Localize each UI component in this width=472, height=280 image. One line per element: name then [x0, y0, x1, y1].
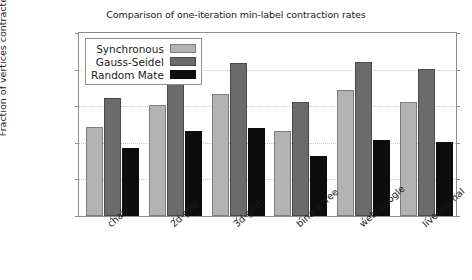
legend-color-swatch — [170, 70, 196, 79]
bar-group — [274, 33, 327, 216]
y-axis-tick-mark — [75, 216, 79, 217]
y-axis-tick-mark — [75, 143, 79, 144]
y-axis-tick-mark-right — [456, 143, 460, 144]
chart-legend: SynchronousGauss-SeidelRandom Mate — [85, 38, 202, 85]
chart-title: Comparison of one-iteration min-label co… — [0, 9, 472, 20]
legend-item: Random Mate — [91, 68, 196, 81]
bar — [292, 102, 309, 216]
bar — [149, 105, 166, 216]
bar — [86, 127, 103, 216]
legend-item: Gauss-Seidel — [91, 55, 196, 68]
legend-color-swatch — [170, 57, 196, 66]
bar — [418, 69, 435, 216]
y-axis-tick-mark — [75, 106, 79, 107]
y-axis-tick-mark — [75, 70, 79, 71]
legend-item: Synchronous — [91, 42, 196, 55]
bar — [274, 131, 291, 216]
bar — [212, 94, 229, 216]
bar-group — [400, 33, 453, 216]
y-axis-tick-mark-right — [456, 216, 460, 217]
bar — [337, 90, 354, 216]
bar — [167, 72, 184, 216]
bar — [230, 63, 247, 216]
y-axis-tick-mark — [75, 33, 79, 34]
bar — [104, 98, 121, 216]
y-axis-tick-mark-right — [456, 70, 460, 71]
legend-label: Gauss-Seidel — [96, 56, 164, 68]
bar-group — [337, 33, 390, 216]
bar-group — [212, 33, 265, 216]
legend-color-swatch — [170, 44, 196, 53]
y-axis-tick-mark-right — [456, 179, 460, 180]
bar — [400, 102, 417, 216]
y-axis-tick-mark-right — [456, 106, 460, 107]
bar-chart-figure: Comparison of one-iteration min-label co… — [0, 0, 472, 280]
legend-label: Synchronous — [96, 43, 164, 55]
bar — [355, 62, 372, 216]
y-axis-tick-mark-right — [456, 33, 460, 34]
legend-label: Random Mate — [91, 69, 164, 81]
y-axis-tick-mark — [75, 179, 79, 180]
y-axis-title: Fraction of vertices contracted — [0, 0, 8, 184]
